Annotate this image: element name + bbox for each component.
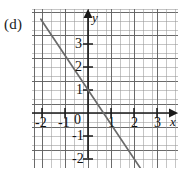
origin-label: 0 [74,113,81,127]
y-tick-label--2: -2 [72,152,84,166]
plot-svg [32,9,178,168]
graph-figure: (d) -2 -1 0 [0,0,191,173]
y-axis-label: y [92,11,98,24]
part-label: (d) [4,16,22,33]
x-axis-label: x [170,115,176,128]
x-tick-label-3: 3 [154,116,161,130]
x-tick-label-1: 1 [108,116,115,130]
plotted-line [41,19,143,168]
plot-area [32,9,178,168]
y-tick-label--1: -1 [72,129,84,143]
x-tick-label-2: 2 [131,116,138,130]
y-tick-label-2: 2 [75,60,82,74]
x-tick-label--2: -2 [35,116,47,130]
x-tick-label--1: -1 [58,116,70,130]
y-tick-label-1: 1 [76,83,83,97]
y-tick-label-3: 3 [75,37,82,51]
